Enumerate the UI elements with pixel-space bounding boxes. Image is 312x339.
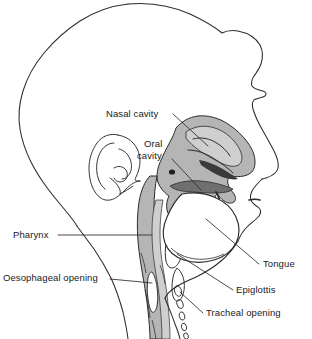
nasal-vestibule-mark [169,169,175,174]
label-tongue: Tongue [263,258,295,269]
label-epiglottis: Epiglottis [236,284,276,295]
label-tracheal-opening: Tracheal opening [206,307,281,318]
label-pharynx: Pharynx [13,229,49,240]
label-nasal-cavity: Nasal cavity [106,108,158,119]
anatomy-diagram-page: Nasal cavity Oral cavity Pharynx Oesopha… [0,0,312,339]
label-oral-cavity-line1: Oral [144,138,162,149]
label-oral-cavity-line2: cavity [137,150,162,161]
label-oesophageal-opening: Oesophageal opening [3,272,98,283]
lip-fissure [249,199,260,200]
